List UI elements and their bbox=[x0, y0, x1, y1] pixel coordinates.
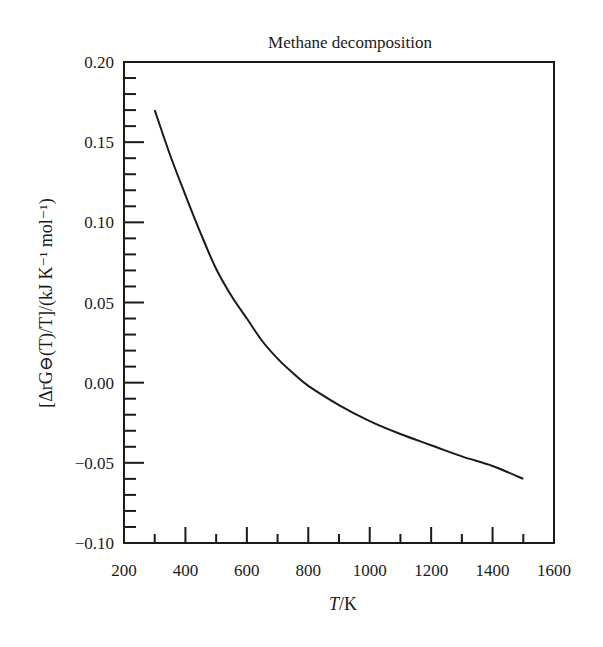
y-tick-label: 0.00 bbox=[84, 374, 114, 393]
data-line-methane-decomposition bbox=[155, 110, 524, 479]
y-axis-label: [ΔrG⊖(T)/T]/(kJ K⁻¹ mol⁻¹) bbox=[36, 198, 57, 407]
x-tick-label: 1400 bbox=[476, 561, 510, 580]
x-tick-label: 1200 bbox=[414, 561, 448, 580]
y-tick-label: 0.05 bbox=[84, 294, 114, 313]
y-tick-label: 0.10 bbox=[84, 213, 114, 232]
x-tick-label: 1000 bbox=[353, 561, 387, 580]
y-tick-label: −0.05 bbox=[75, 454, 114, 473]
x-tick-label: 600 bbox=[234, 561, 260, 580]
chart-title: Methane decomposition bbox=[268, 33, 432, 52]
x-tick-label: 200 bbox=[111, 561, 137, 580]
y-tick-label: 0.15 bbox=[84, 133, 114, 152]
y-tick-label: −0.10 bbox=[75, 534, 114, 553]
x-tick-label: 800 bbox=[296, 561, 322, 580]
x-axis-ticks bbox=[155, 527, 524, 543]
x-axis-tick-labels: 2004006008001000120014001600 bbox=[111, 561, 571, 580]
y-axis-ticks bbox=[124, 78, 144, 527]
plot-frame bbox=[124, 62, 554, 543]
x-axis-label: T/K bbox=[329, 594, 357, 614]
y-axis-tick-labels: 0.200.150.100.050.00−0.05−0.10 bbox=[75, 53, 114, 553]
x-tick-label: 1600 bbox=[537, 561, 571, 580]
y-tick-label: 0.20 bbox=[84, 53, 114, 72]
x-tick-label: 400 bbox=[173, 561, 199, 580]
chart: Methane decomposition 0.200.150.100.050.… bbox=[0, 0, 603, 647]
